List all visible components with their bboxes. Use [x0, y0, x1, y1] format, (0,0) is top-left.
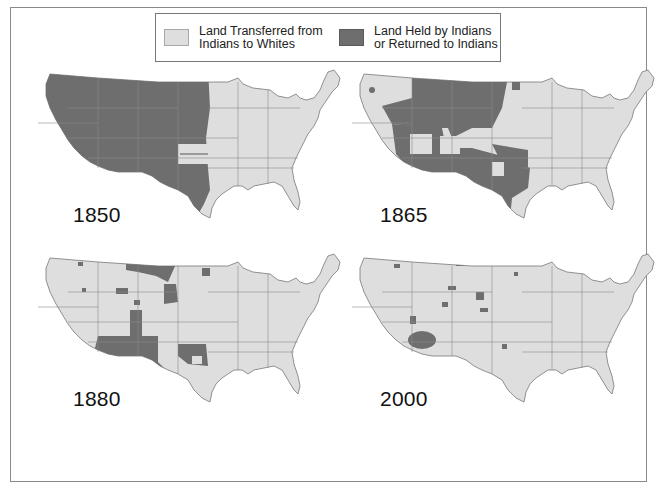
year-label-2000: 2000	[380, 387, 428, 411]
map-1865: 1865	[352, 68, 658, 232]
legend-swatch-held	[339, 29, 364, 46]
legend-label-held: Land Held by Indians or Returned to Indi…	[374, 25, 498, 51]
map-1880: 1880	[38, 252, 348, 416]
map-2000: 2000	[352, 252, 658, 416]
year-label-1880: 1880	[73, 387, 121, 411]
legend: Land Transferred from Indians to Whites …	[155, 13, 501, 62]
map-1850: 1850	[38, 68, 348, 232]
year-label-1865: 1865	[380, 203, 428, 227]
legend-swatch-transferred	[164, 29, 189, 46]
year-label-1850: 1850	[73, 203, 121, 227]
legend-label-transferred: Land Transferred from Indians to Whites	[199, 25, 323, 51]
